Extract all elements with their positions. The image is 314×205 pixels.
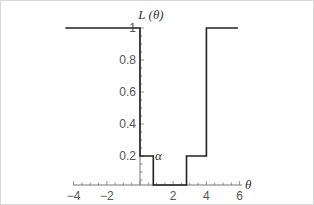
loss-step-line bbox=[65, 28, 238, 185]
chart-container: −4−2246 0.20.40.60.81 L (θ) θ α bbox=[0, 0, 314, 205]
x-axis-title: θ bbox=[245, 177, 252, 192]
x-tick-label: 2 bbox=[170, 189, 177, 203]
alpha-annotation: α bbox=[155, 148, 163, 163]
x-tick-label: 6 bbox=[236, 189, 243, 203]
y-tick-label: 0.2 bbox=[119, 149, 136, 163]
y-axis-title: L (θ) bbox=[137, 7, 163, 22]
x-tick-label: 4 bbox=[203, 189, 210, 203]
y-tick-label: 0.4 bbox=[119, 117, 136, 131]
y-tick-label: 0.6 bbox=[119, 85, 136, 99]
x-tick-label: −2 bbox=[100, 189, 114, 203]
y-tick-label: 0.8 bbox=[119, 53, 136, 67]
x-tick-label: −4 bbox=[67, 189, 81, 203]
step-chart: −4−2246 0.20.40.60.81 L (θ) θ α bbox=[1, 1, 314, 205]
